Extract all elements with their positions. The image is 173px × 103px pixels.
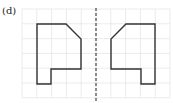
original-shape (37, 24, 81, 84)
figure: (d) (0, 0, 173, 103)
reflected-shape (111, 24, 155, 84)
grid-diagram (0, 0, 173, 103)
